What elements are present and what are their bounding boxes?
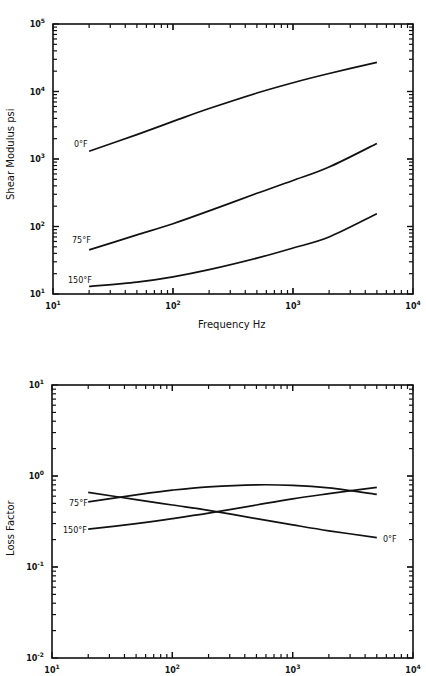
top-chart-ticks (53, 24, 413, 294)
y-tick-label: 101 (29, 378, 44, 390)
bottom-chart-ticks (52, 385, 413, 658)
x-tick-label: 101 (44, 663, 59, 675)
y-tick-label: 10-1 (26, 560, 44, 572)
series-curve-150f (88, 487, 377, 529)
x-tick-label: 104 (405, 299, 420, 311)
series-curve-75f (89, 143, 377, 250)
x-tick-label: 102 (165, 299, 180, 311)
shear-modulus-chart: 101102103104101102103104105 0°F 75°F 150… (5, 17, 421, 330)
series-label-0f: 0°F (74, 140, 88, 149)
x-axis-label: Frequency Hz (198, 319, 266, 330)
y-axis-label: Shear Modulus psi (5, 108, 16, 200)
figure: 101102103104101102103104105 0°F 75°F 150… (0, 0, 426, 676)
y-axis-label: Loss Factor (5, 499, 16, 556)
y-tick-label: 102 (30, 220, 45, 232)
top-chart-curves (89, 62, 377, 286)
series-label-75f: 75°F (72, 236, 91, 245)
series-curve-150f (89, 214, 377, 287)
series-curve-0f (88, 492, 377, 537)
bottom-chart-frame (52, 385, 413, 658)
top-chart-frame (53, 24, 413, 294)
top-chart-tick-labels: 101102103104101102103104105 (30, 17, 421, 311)
y-tick-label: 104 (30, 85, 45, 97)
y-tick-label: 100 (29, 469, 44, 481)
series-label-0f: 0°F (383, 535, 397, 544)
loss-factor-chart: 10110210310410-210-1100101 0°F 75°F 150°… (5, 378, 421, 675)
y-tick-label: 105 (30, 17, 45, 29)
series-curve-0f (89, 62, 377, 151)
y-tick-label: 10-2 (26, 651, 44, 663)
x-tick-label: 103 (285, 663, 300, 675)
y-tick-label: 103 (30, 152, 45, 164)
x-tick-label: 102 (165, 663, 180, 675)
x-tick-label: 103 (285, 299, 300, 311)
series-label-150f: 150°F (68, 276, 92, 285)
y-tick-label: 101 (30, 287, 45, 299)
series-label-150f: 150°F (63, 526, 87, 535)
bottom-chart-curves (88, 485, 377, 538)
x-tick-label: 104 (405, 663, 420, 675)
x-tick-label: 101 (45, 299, 60, 311)
series-label-75f: 75°F (69, 499, 88, 508)
